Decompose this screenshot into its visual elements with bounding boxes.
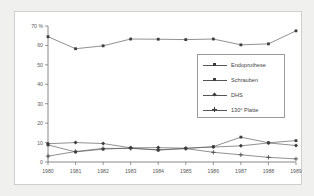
data-point <box>239 144 243 148</box>
x-tick-label: 1982 <box>97 168 109 174</box>
series-endoprothese <box>47 29 298 50</box>
figure-canvas: 010203040506070 %19801981198219831984198… <box>0 0 314 196</box>
legend-label: Endoprothese <box>231 62 266 68</box>
data-point <box>73 149 77 153</box>
data-point <box>239 153 243 157</box>
legend-item-schrauben[interactable]: Schrauben <box>198 72 284 88</box>
legend-label: Schrauben <box>231 77 258 83</box>
y-tick-label: 0 <box>40 159 43 165</box>
data-point <box>239 43 242 46</box>
data-point <box>47 35 50 38</box>
legend-marker-diamond-icon <box>203 90 227 100</box>
data-point <box>102 44 105 47</box>
data-point <box>46 154 50 158</box>
data-point <box>101 142 105 146</box>
x-tick-label: 1981 <box>70 168 82 174</box>
x-tick-label: 1985 <box>180 168 192 174</box>
data-point <box>184 38 187 41</box>
data-point <box>156 148 160 152</box>
y-tick-label: 70 % <box>31 23 43 29</box>
legend-marker-square-icon <box>203 60 227 70</box>
y-tick-label: 30 <box>37 101 43 107</box>
data-point <box>74 141 78 145</box>
chart-legend: Endoprothese Schrauben DHS 130° Platte <box>197 54 285 118</box>
x-tick-label: 1988 <box>263 168 275 174</box>
series-130-platte <box>46 146 298 161</box>
y-tick-label: 40 <box>37 81 43 87</box>
legend-item-130-platte[interactable]: 130° Platte <box>198 102 284 118</box>
series-line <box>48 31 296 49</box>
legend-label: DHS <box>231 92 243 98</box>
x-tick-label: 1989 <box>290 168 302 174</box>
series-line <box>48 137 296 152</box>
x-tick-label: 1984 <box>152 168 164 174</box>
series-line <box>48 148 296 158</box>
data-point <box>239 136 242 139</box>
data-point <box>128 146 132 150</box>
data-point <box>129 38 132 41</box>
y-tick-label: 20 <box>37 120 43 126</box>
y-tick-label: 10 <box>37 140 43 146</box>
legend-item-dhs[interactable]: DHS <box>198 87 284 103</box>
series-line <box>48 143 296 149</box>
data-point <box>101 146 105 150</box>
legend-marker-cross-icon <box>203 105 227 115</box>
y-tick-label: 50 <box>37 62 43 68</box>
legend-label: 130° Platte <box>231 107 258 113</box>
data-point <box>157 38 160 41</box>
data-point <box>266 155 270 159</box>
data-point <box>295 139 298 142</box>
x-tick-label: 1980 <box>42 168 54 174</box>
data-point <box>267 42 270 45</box>
x-tick-label: 1983 <box>125 168 137 174</box>
data-point <box>294 143 298 147</box>
data-point <box>212 38 215 41</box>
data-point <box>294 157 298 161</box>
chart-panel: 010203040506070 %19801981198219831984198… <box>14 11 302 185</box>
series-dhs <box>46 141 298 151</box>
data-point <box>184 146 188 150</box>
y-tick-label: 60 <box>37 42 43 48</box>
data-point <box>211 150 215 154</box>
x-tick-label: 1987 <box>235 168 247 174</box>
data-point <box>74 47 77 50</box>
data-point <box>295 29 298 32</box>
legend-marker-square-icon <box>203 75 227 85</box>
x-tick-label: 1986 <box>208 168 220 174</box>
legend-item-endoprothese[interactable]: Endoprothese <box>198 57 284 73</box>
